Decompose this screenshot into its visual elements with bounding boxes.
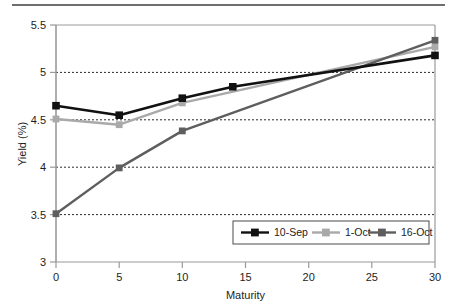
series-16-oct-marker <box>432 37 439 44</box>
x-tick-label-25: 25 <box>366 271 378 283</box>
x-tick-label-30: 30 <box>429 271 441 283</box>
series-10-sep-marker <box>431 52 439 60</box>
legend-label-10-sep: 10-Sep <box>274 226 308 238</box>
x-axis-title: Maturity <box>226 289 266 301</box>
y-tick-label-5: 5 <box>40 66 46 78</box>
y-tick-label-3.5: 3.5 <box>31 209 46 221</box>
series-16-oct-marker <box>116 165 123 172</box>
y-axis-title: Yield (%) <box>16 122 28 166</box>
series-1-oct-marker <box>432 44 439 51</box>
chart-page: 5.5 5 4.5 4 3.5 3 0 5 10 15 20 25 30 Yie… <box>0 0 453 306</box>
series-10-sep-marker <box>229 83 237 91</box>
series-1-oct-marker <box>53 116 60 123</box>
x-axis-ticks <box>56 262 435 268</box>
series-10-sep-marker <box>179 94 187 102</box>
legend-label-16-oct: 16-Oct <box>401 226 433 238</box>
y-tick-labels: 5.5 5 4.5 4 3.5 3 <box>31 19 46 268</box>
x-tick-label-10: 10 <box>176 271 188 283</box>
series-16-oct-marker <box>179 128 186 135</box>
y-tick-label-3: 3 <box>40 256 46 268</box>
x-tick-label-15: 15 <box>239 271 251 283</box>
y-axis-ticks <box>50 25 56 262</box>
x-tick-label-20: 20 <box>303 271 315 283</box>
series-10-sep-marker <box>115 111 123 119</box>
chart-legend[interactable]: 10-Sep 1-Oct 16-Oct <box>233 221 433 244</box>
y-tick-label-4.5: 4.5 <box>31 114 46 126</box>
x-tick-labels: 0 5 10 15 20 25 30 <box>53 271 441 283</box>
y-tick-label-5.5: 5.5 <box>31 19 46 31</box>
series-10-sep-marker <box>52 102 60 110</box>
x-tick-label-5: 5 <box>116 271 122 283</box>
yield-curve-chart: 5.5 5 4.5 4 3.5 3 0 5 10 15 20 25 30 Yie… <box>0 0 453 306</box>
series-16-oct-marker <box>53 210 60 217</box>
series-1-oct-marker <box>116 121 123 128</box>
legend-swatch-marker-1-oct <box>322 229 330 237</box>
legend-swatch-marker-10-sep <box>251 229 259 237</box>
legend-swatch-marker-16-oct <box>378 229 386 237</box>
y-tick-label-4: 4 <box>40 161 46 173</box>
x-tick-label-0: 0 <box>53 271 59 283</box>
legend-label-1-oct: 1-Oct <box>345 226 371 238</box>
